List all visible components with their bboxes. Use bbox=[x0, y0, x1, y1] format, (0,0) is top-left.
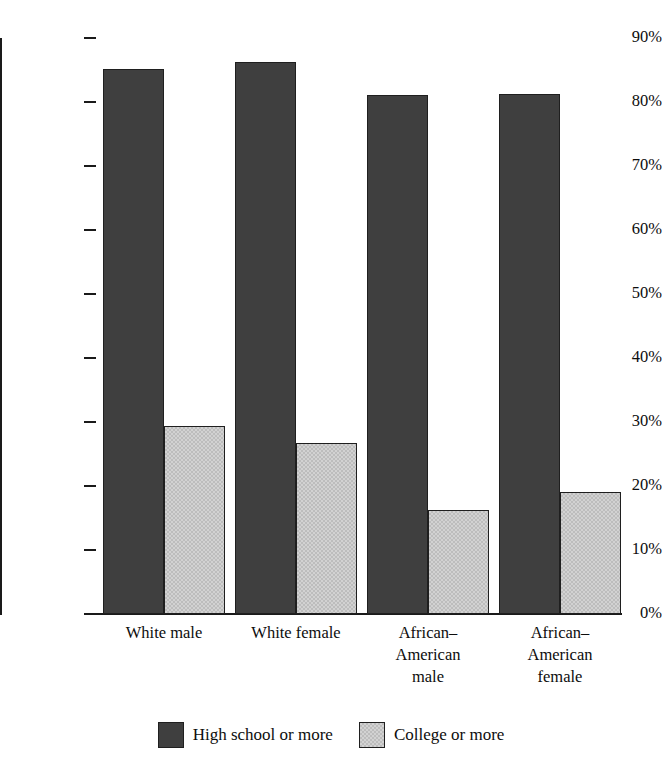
bar-college bbox=[296, 443, 357, 614]
plot-area bbox=[95, 38, 620, 614]
bar-chart: Percent 0%10%20%30%40%50%60%70%80%90% Wh… bbox=[0, 0, 662, 772]
x-axis-category-label-line: African– bbox=[483, 622, 637, 644]
legend-label: High school or more bbox=[193, 725, 333, 745]
bar-high-school bbox=[499, 94, 560, 614]
x-axis-category-label-line: female bbox=[483, 666, 637, 688]
legend-item: High school or more bbox=[158, 722, 333, 748]
x-axis-category-label-line: American bbox=[351, 644, 505, 666]
bar-high-school bbox=[367, 95, 428, 614]
chart-legend: High school or moreCollege or more bbox=[0, 722, 662, 748]
x-axis-category-label: White female bbox=[219, 622, 373, 644]
bar-college bbox=[428, 510, 489, 614]
legend-item: College or more bbox=[359, 722, 504, 748]
legend-swatch-light bbox=[359, 722, 385, 748]
bar-high-school bbox=[235, 62, 296, 614]
bar-high-school bbox=[103, 69, 164, 614]
x-axis-category-label-line: White male bbox=[87, 622, 241, 644]
x-axis-category-label: White male bbox=[87, 622, 241, 644]
legend-label: College or more bbox=[394, 725, 504, 745]
bar-college bbox=[560, 492, 621, 614]
x-axis-category-label: African–Americanmale bbox=[351, 622, 505, 687]
legend-swatch-dark bbox=[158, 722, 184, 748]
x-axis-category-label-line: American bbox=[483, 644, 637, 666]
x-axis-category-label-line: White female bbox=[219, 622, 373, 644]
x-axis-category-label-line: African– bbox=[351, 622, 505, 644]
y-axis-line bbox=[0, 38, 2, 615]
x-axis-category-label-line: male bbox=[351, 666, 505, 688]
x-axis-category-label: African–Americanfemale bbox=[483, 622, 637, 687]
bar-college bbox=[164, 426, 225, 614]
